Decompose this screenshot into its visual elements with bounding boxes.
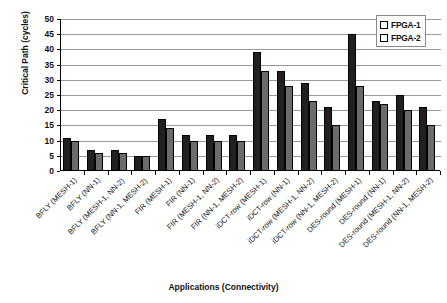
x-axis-tick-mark bbox=[203, 171, 204, 175]
bar-fpga-1 bbox=[111, 150, 119, 171]
y-axis-tick-mark bbox=[57, 171, 60, 172]
y-axis-tick-label: 50 bbox=[32, 15, 54, 23]
bar-group bbox=[180, 19, 204, 171]
bar-group bbox=[346, 19, 370, 171]
y-axis-tick-label: 45 bbox=[32, 30, 54, 38]
x-axis-tick-mark bbox=[84, 171, 85, 175]
bar-group bbox=[322, 19, 346, 171]
y-axis-tick-label: 5 bbox=[32, 152, 54, 160]
bar-fpga-2 bbox=[190, 141, 198, 171]
x-axis-tick-mark bbox=[179, 171, 180, 175]
x-axis-tick-mark bbox=[274, 171, 275, 175]
bar-group bbox=[204, 19, 228, 171]
legend-item: FPGA-2 bbox=[380, 31, 421, 44]
x-axis-tick-mark bbox=[440, 171, 441, 175]
bar-fpga-1 bbox=[301, 83, 309, 171]
bar-group bbox=[85, 19, 109, 171]
y-axis-tick-label: 25 bbox=[32, 91, 54, 99]
x-axis-tick-mark bbox=[226, 171, 227, 175]
bar-fpga-2 bbox=[166, 128, 174, 171]
bar-group bbox=[251, 19, 275, 171]
y-axis-tick-label: 20 bbox=[32, 106, 54, 114]
bar-fpga-2 bbox=[95, 153, 103, 171]
bar-fpga-2 bbox=[237, 141, 245, 171]
bar-fpga-1 bbox=[63, 138, 71, 171]
bar-fpga-1 bbox=[253, 52, 261, 171]
x-axis-tick-mark bbox=[369, 171, 370, 175]
bar-group bbox=[227, 19, 251, 171]
bar-group bbox=[299, 19, 323, 171]
bar-fpga-2 bbox=[380, 104, 388, 171]
y-axis-tick-label: 15 bbox=[32, 121, 54, 129]
bar-group bbox=[109, 19, 133, 171]
legend-label: FPGA-1 bbox=[391, 20, 421, 30]
y-axis-tick-label: 40 bbox=[32, 45, 54, 53]
bar-fpga-1 bbox=[229, 135, 237, 171]
bar-fpga-1 bbox=[206, 135, 214, 171]
bar-fpga-1 bbox=[348, 34, 356, 171]
x-axis-tick-mark bbox=[393, 171, 394, 175]
bar-fpga-1 bbox=[134, 156, 142, 171]
bar-fpga-2 bbox=[261, 71, 269, 171]
bar-fpga-2 bbox=[332, 125, 340, 171]
bar-fpga-2 bbox=[142, 156, 150, 171]
y-axis-tick-label: 0 bbox=[32, 167, 54, 175]
y-axis-title: Critical Path (cycles) bbox=[20, 0, 30, 123]
chart-legend: FPGA-1 FPGA-2 bbox=[376, 15, 426, 47]
x-axis-tick-mark bbox=[131, 171, 132, 175]
bar-chart-figure: Critical Path (cycles) 05101520253035404… bbox=[0, 0, 447, 303]
y-axis-tick-label: 10 bbox=[32, 137, 54, 145]
y-axis-tick-label: 35 bbox=[32, 61, 54, 69]
bar-fpga-2 bbox=[404, 110, 412, 171]
bar-group bbox=[275, 19, 299, 171]
bar-fpga-1 bbox=[87, 150, 95, 171]
bar-fpga-1 bbox=[372, 101, 380, 171]
x-axis-tick-mark bbox=[298, 171, 299, 175]
x-axis-tick-mark bbox=[321, 171, 322, 175]
x-axis-tick-mark bbox=[250, 171, 251, 175]
bar-fpga-1 bbox=[277, 71, 285, 171]
bar-fpga-2 bbox=[71, 141, 79, 171]
bar-fpga-2 bbox=[427, 125, 435, 171]
bar-group bbox=[156, 19, 180, 171]
bar-fpga-2 bbox=[356, 86, 364, 171]
y-axis-tick-label: 30 bbox=[32, 76, 54, 84]
x-axis-title: Applications (Connectivity) bbox=[0, 282, 447, 292]
legend-item: FPGA-1 bbox=[380, 18, 421, 31]
bar-fpga-2 bbox=[285, 86, 293, 171]
legend-swatch-fpga-2-icon bbox=[380, 34, 388, 42]
bar-fpga-1 bbox=[419, 107, 427, 171]
bar-fpga-2 bbox=[214, 141, 222, 171]
legend-swatch-fpga-1-icon bbox=[380, 21, 388, 29]
bar-group bbox=[61, 19, 85, 171]
bar-fpga-1 bbox=[182, 135, 190, 171]
x-axis-tick-mark bbox=[108, 171, 109, 175]
bar-group bbox=[132, 19, 156, 171]
x-axis-tick-mark bbox=[155, 171, 156, 175]
bar-fpga-1 bbox=[396, 95, 404, 171]
bar-fpga-2 bbox=[119, 153, 127, 171]
bar-fpga-1 bbox=[158, 119, 166, 171]
x-axis-tick-mark bbox=[416, 171, 417, 175]
legend-label: FPGA-2 bbox=[391, 33, 421, 43]
bar-fpga-2 bbox=[309, 101, 317, 171]
bar-fpga-1 bbox=[324, 107, 332, 171]
x-axis-tick-mark bbox=[345, 171, 346, 175]
